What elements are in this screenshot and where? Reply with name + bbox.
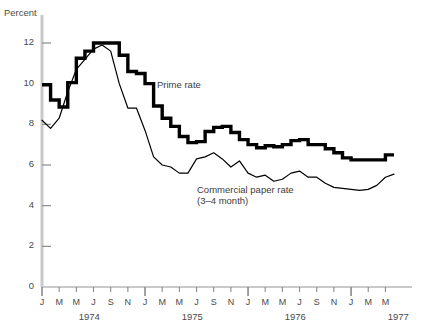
- commercial-paper-label: Commercial paper rate (3–4 month): [197, 184, 294, 206]
- prime-rate-label: Prime rate: [157, 79, 201, 90]
- axes: [42, 15, 412, 296]
- data-series: [42, 43, 394, 190]
